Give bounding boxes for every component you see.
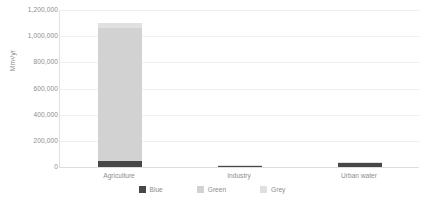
- y-tick-label: 200,000: [2, 137, 58, 144]
- y-tick-label: 800,000: [2, 58, 58, 65]
- y-axis-tick-labels: 0200,000400,000600,000800,0001,000,0001,…: [0, 0, 58, 175]
- y-tick-label: 600,000: [2, 85, 58, 92]
- y-tick-label: 1,200,000: [2, 6, 58, 13]
- x-axis-line: [59, 167, 419, 168]
- legend-swatch-icon: [260, 186, 267, 193]
- bar-segment-green[interactable]: [98, 28, 142, 161]
- bar-chart: Mm³/yr 0200,000400,000600,000800,0001,00…: [0, 0, 424, 205]
- legend-item-grey[interactable]: Grey: [260, 186, 285, 193]
- legend-swatch-icon: [139, 186, 146, 193]
- legend-label: Grey: [271, 186, 285, 193]
- legend-label: Green: [208, 186, 226, 193]
- legend-item-green[interactable]: Green: [197, 186, 226, 193]
- x-tick-label: Urban water: [309, 172, 409, 179]
- bar-agriculture[interactable]: [98, 23, 142, 167]
- plot-area: [59, 10, 420, 167]
- y-tick-label: 1,000,000: [2, 32, 58, 39]
- y-tick-label: 0: [2, 163, 58, 170]
- legend-item-blue[interactable]: Blue: [139, 186, 163, 193]
- x-tick-label: Industry: [189, 172, 289, 179]
- x-tick-label: Agriculture: [69, 172, 169, 179]
- chart-legend: BlueGreenGrey: [0, 186, 424, 193]
- gridline: [60, 10, 420, 11]
- legend-swatch-icon: [197, 186, 204, 193]
- legend-label: Blue: [150, 186, 163, 193]
- y-tick-label: 400,000: [2, 111, 58, 118]
